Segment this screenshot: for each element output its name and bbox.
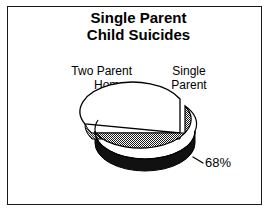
pie-chart-graphic (70, 94, 220, 184)
pie-chart-svg (70, 94, 220, 184)
page-title: Single Parent Child Suicides (0, 9, 277, 43)
data-label-68-percent: 68% (205, 155, 231, 170)
pie-label-two-parent-homes-line-1: Two Parent (28, 64, 132, 78)
title-line-1: Single Parent (0, 9, 277, 26)
chart-screenshot: Single Parent Child Suicides Two Parent … (0, 0, 277, 221)
title-line-2: Child Suicides (0, 26, 277, 43)
callout-leader-line (193, 157, 203, 163)
pie-label-single-parent-line-1: Single (148, 64, 230, 78)
